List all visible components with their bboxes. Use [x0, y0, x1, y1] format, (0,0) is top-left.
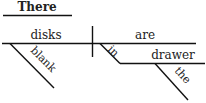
preposition-word: in — [105, 43, 122, 60]
expletive-word: There — [17, 0, 57, 14]
subject-word: disks — [30, 28, 61, 42]
verb-word: are — [135, 28, 155, 42]
sentence-diagram: There disks are blank in drawer the — [0, 0, 206, 103]
prep-object-modifier-word: the — [172, 64, 194, 86]
subject-modifier-word: blank — [28, 44, 59, 75]
prep-object-word: drawer — [151, 48, 195, 62]
